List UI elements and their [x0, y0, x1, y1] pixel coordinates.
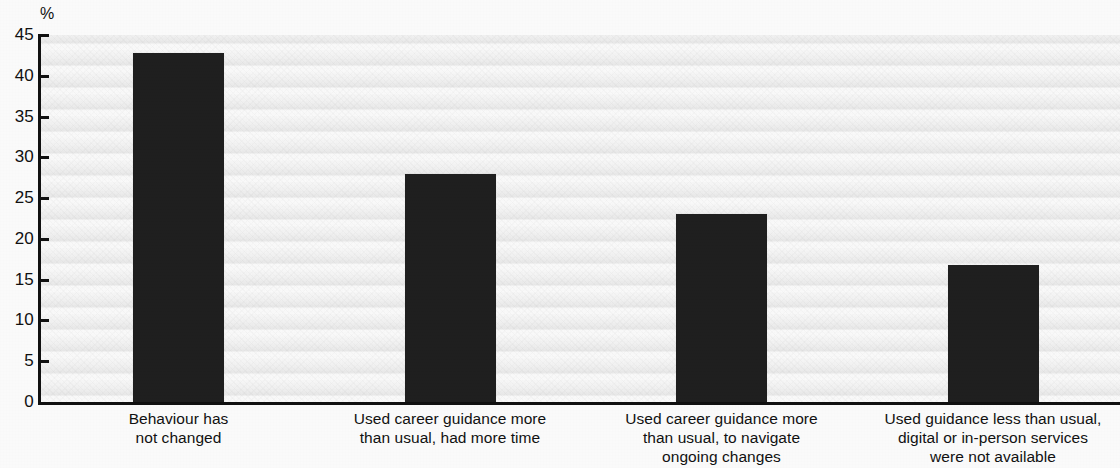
y-tick-mark — [41, 319, 49, 322]
y-tick-label: 5 — [0, 352, 34, 369]
y-tick-label: 45 — [0, 26, 34, 43]
y-tick-label: 35 — [0, 108, 34, 125]
category-label-line: not changed — [42, 428, 316, 447]
y-tick-mark — [41, 116, 49, 119]
category-label-4: Used guidance less than usual,digital or… — [856, 409, 1120, 466]
y-tick-mark — [41, 360, 49, 363]
y-tick-label: 30 — [0, 148, 34, 165]
bar-chart-figure: % 051015202530354045 Behaviour hasnot ch… — [0, 0, 1120, 468]
category-label-line: were not available — [856, 447, 1120, 466]
y-tick-mark — [41, 34, 49, 37]
y-axis-unit-label: % — [40, 6, 54, 22]
bar-4 — [948, 265, 1039, 402]
category-label-line: Used career guidance more — [585, 409, 859, 428]
y-tick-mark — [41, 156, 49, 159]
category-label-line: ongoing changes — [585, 447, 859, 466]
category-label-line: Behaviour has — [42, 409, 316, 428]
bar-1 — [133, 53, 224, 402]
y-tick-mark — [41, 197, 49, 200]
bar-3 — [676, 214, 767, 402]
category-label-line: Used career guidance more — [313, 409, 587, 428]
y-tick-label: 15 — [0, 271, 34, 288]
category-label-line: than usual, to navigate — [585, 428, 859, 447]
y-tick-label: 0 — [0, 393, 34, 410]
category-label-3: Used career guidance morethan usual, to … — [585, 409, 859, 466]
category-label-line: Used guidance less than usual, — [856, 409, 1120, 428]
bar-2 — [405, 174, 496, 402]
y-axis-line — [38, 34, 41, 405]
y-tick-label: 10 — [0, 311, 34, 328]
y-tick-mark — [41, 75, 49, 78]
y-tick-mark — [41, 279, 49, 282]
y-tick-label: 20 — [0, 230, 34, 247]
y-tick-label: 25 — [0, 189, 34, 206]
x-axis-line — [38, 402, 1120, 405]
category-label-2: Used career guidance morethan usual, had… — [313, 409, 587, 447]
y-tick-label: 40 — [0, 67, 34, 84]
category-label-1: Behaviour hasnot changed — [42, 409, 316, 447]
category-label-line: digital or in-person services — [856, 428, 1120, 447]
y-tick-mark — [41, 238, 49, 241]
category-label-line: than usual, had more time — [313, 428, 587, 447]
